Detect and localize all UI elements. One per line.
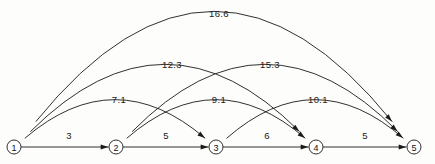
node-4[interactable]: 4 bbox=[309, 140, 323, 154]
edge-weight-label-1-5: 16.6 bbox=[209, 8, 229, 19]
edge-2-to-5 bbox=[132, 64, 397, 131]
graph-diagram: 12345 35657.19.110.112.315.316.6 bbox=[0, 0, 435, 164]
edge-weight-label-1-4: 12.3 bbox=[162, 59, 182, 70]
edge-weight-label-3-5: 10.1 bbox=[308, 94, 328, 105]
edge-weight-label-1-2: 3 bbox=[66, 130, 72, 141]
edge-weight-label-1-3: 7.1 bbox=[112, 94, 126, 105]
edge-1-to-2 bbox=[22, 145, 109, 150]
node-label-2: 2 bbox=[113, 143, 118, 153]
edge-weight-label-2-5: 15.3 bbox=[260, 59, 280, 70]
edges-layer bbox=[22, 11, 407, 149]
edge-weight-label-2-4: 9.1 bbox=[212, 94, 226, 105]
node-2[interactable]: 2 bbox=[109, 140, 123, 154]
node-label-4: 4 bbox=[313, 143, 318, 153]
edge-3-to-4 bbox=[224, 145, 309, 150]
edge-weight-label-3-4: 6 bbox=[264, 130, 270, 141]
node-1[interactable]: 1 bbox=[7, 140, 21, 154]
edge-4-to-5 bbox=[324, 145, 407, 150]
edge-1-to-4 bbox=[31, 64, 300, 131]
edge-1-to-3 bbox=[25, 100, 205, 139]
edge-weight-label-4-5: 5 bbox=[362, 130, 368, 141]
node-label-1: 1 bbox=[11, 143, 16, 153]
edge-2-to-3 bbox=[124, 145, 209, 150]
node-label-5: 5 bbox=[411, 143, 416, 153]
node-label-3: 3 bbox=[213, 143, 218, 153]
edge-weight-label-2-3: 5 bbox=[163, 130, 169, 141]
edge-1-to-5 bbox=[36, 11, 392, 121]
edge-3-to-5 bbox=[227, 100, 403, 139]
graph-canvas: 12345 35657.19.110.112.315.316.6 bbox=[0, 0, 435, 164]
node-5[interactable]: 5 bbox=[407, 140, 421, 154]
edge-2-to-4 bbox=[127, 100, 305, 139]
node-3[interactable]: 3 bbox=[209, 140, 223, 154]
